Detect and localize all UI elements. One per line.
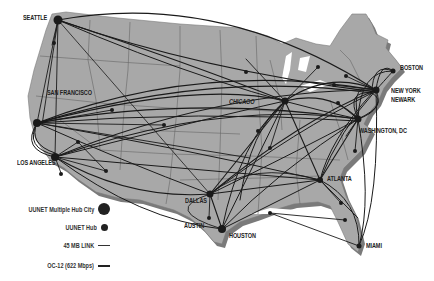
legend-item-45mb: 45 MB LINK [58, 242, 110, 249]
hub-austin[interactable] [207, 216, 211, 220]
legend-label: UUNET Multiple Hub City [28, 206, 94, 213]
label-austin: AUSTIN [184, 222, 204, 229]
legend-label: OC-12 (622 Mbps) [47, 262, 94, 269]
legend-label: 45 MB LINK [63, 242, 94, 249]
hub-seattle[interactable] [54, 16, 63, 25]
label-houston: HOUSTON [229, 232, 256, 239]
thin-line-icon [98, 245, 110, 246]
land [28, 12, 402, 252]
hub-dallas[interactable] [207, 191, 214, 198]
hub-sf[interactable] [33, 119, 41, 127]
hub-boston[interactable] [391, 69, 396, 74]
label-newark: NEWARK [391, 96, 415, 103]
hub-dc[interactable] [355, 116, 362, 123]
label-chicago: CHICAGO [229, 98, 255, 105]
legend-item-multi-hub: UUNET Multiple Hub City [17, 203, 110, 215]
legend-item-oc12: OC-12 (622 Mbps) [39, 262, 110, 269]
small-dot-icon [101, 224, 108, 231]
large-dot-icon [98, 203, 110, 215]
label-atlanta: ATLANTA [327, 175, 352, 182]
label-san-francisco: SAN FRANCISCO [47, 89, 92, 96]
label-seattle: SEATTLE [23, 14, 47, 21]
label-los-angeles: LOS ANGELES [17, 159, 55, 166]
us-network-map [0, 0, 434, 281]
hub-miami[interactable] [357, 244, 362, 249]
us-landmass [28, 12, 402, 252]
label-boston: BOSTON [400, 64, 423, 71]
label-miami: MIAMI [366, 242, 382, 249]
hub-chicago[interactable] [282, 98, 289, 105]
legend-label: UUNET Hub [66, 224, 97, 231]
hub-houston[interactable] [218, 225, 226, 233]
legend-item-hub: UUNET Hub [60, 224, 110, 231]
hub-ny[interactable] [373, 87, 380, 94]
hub-atlanta[interactable] [317, 177, 323, 183]
label-new-york: NEW YORK [391, 87, 421, 94]
label-dallas: DALLAS [185, 197, 207, 204]
label-washington-dc: WASHINGTON, DC [359, 127, 407, 134]
thick-line-icon [98, 265, 110, 267]
